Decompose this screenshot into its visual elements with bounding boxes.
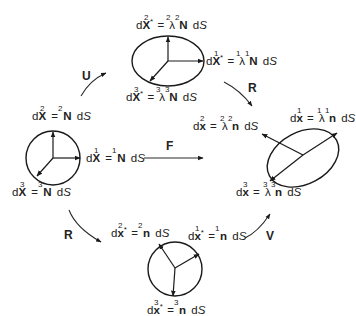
operator-F-label: F [166, 139, 173, 153]
vector-n3-arrow [173, 268, 175, 296]
vector-n2-arrow [159, 244, 175, 268]
rotated-configuration: dx* = n dS 2 2 dx* = n dS 1 1 dx* = n dS… [111, 221, 247, 316]
sup-lambda2-r: 2 [220, 114, 225, 123]
sup-n2-b: 2 [138, 221, 143, 230]
sup-dXstar1: 1 [214, 49, 219, 58]
sup-dx3: 3 [243, 180, 248, 189]
sup-n3-b: 3 [174, 298, 179, 307]
sup-n3-r: 3 [271, 180, 276, 189]
sup-lambda2: 2 [166, 13, 171, 22]
sup-dX3: 3 [20, 180, 25, 189]
vector-lambda3n3-arrow [270, 155, 303, 181]
sup-n1-b: 1 [215, 224, 220, 233]
sup-N2: 2 [58, 104, 63, 113]
sup-dXstar3: 3 [134, 85, 139, 94]
sup-n2-r: 2 [228, 114, 233, 123]
sup-N1: 1 [112, 146, 117, 155]
operator-R-top-label: R [248, 81, 257, 95]
sup-dxstar3: 3 [154, 298, 159, 307]
sup-lambda3: 3 [156, 85, 161, 94]
sup-dX2: 2 [40, 104, 45, 113]
sup-lambda1-r: 1 [317, 106, 322, 115]
sup-dx2: 2 [200, 114, 205, 123]
polar-decomposition-diagram: dX = N dS 2 2 dX = N dS 1 1 dX = N dS 3 … [0, 0, 356, 316]
sup-dXstar2: 2 [144, 13, 149, 22]
vector-lambda3N3-arrow [150, 61, 168, 81]
sup-dxstar2: 2 [118, 221, 123, 230]
current-configuration: dx = λ n dS 2 2 2 dx = λ n dS 1 1 1 dx =… [193, 106, 356, 199]
sup-N3-top: 3 [165, 85, 170, 94]
sup-dx1: 1 [297, 106, 302, 115]
vector-lambda2n2-arrow [262, 134, 303, 155]
reference-configuration: dX = N dS 2 2 dX = N dS 1 1 dX = N dS 3 … [12, 104, 145, 198]
sup-N3: 3 [38, 180, 43, 189]
vector-n1-arrow [175, 254, 199, 268]
operator-V-label: V [266, 229, 274, 243]
sup-N2-top: 2 [175, 13, 180, 22]
operator-U-label: U [82, 69, 91, 83]
vector-N3-arrow [37, 158, 53, 176]
sup-N1-top: 1 [245, 49, 250, 58]
sup-n1-r: 1 [325, 106, 330, 115]
sup-lambda3-r: 3 [263, 180, 268, 189]
sup-lambda1: 1 [236, 49, 241, 58]
operator-R-bottom-label: R [64, 228, 73, 242]
sup-dxstar1: 1 [195, 224, 200, 233]
sup-dX1: 1 [94, 146, 99, 155]
arrow-R-bottom [69, 210, 101, 242]
vector-lambda1n1-arrow [303, 133, 337, 155]
